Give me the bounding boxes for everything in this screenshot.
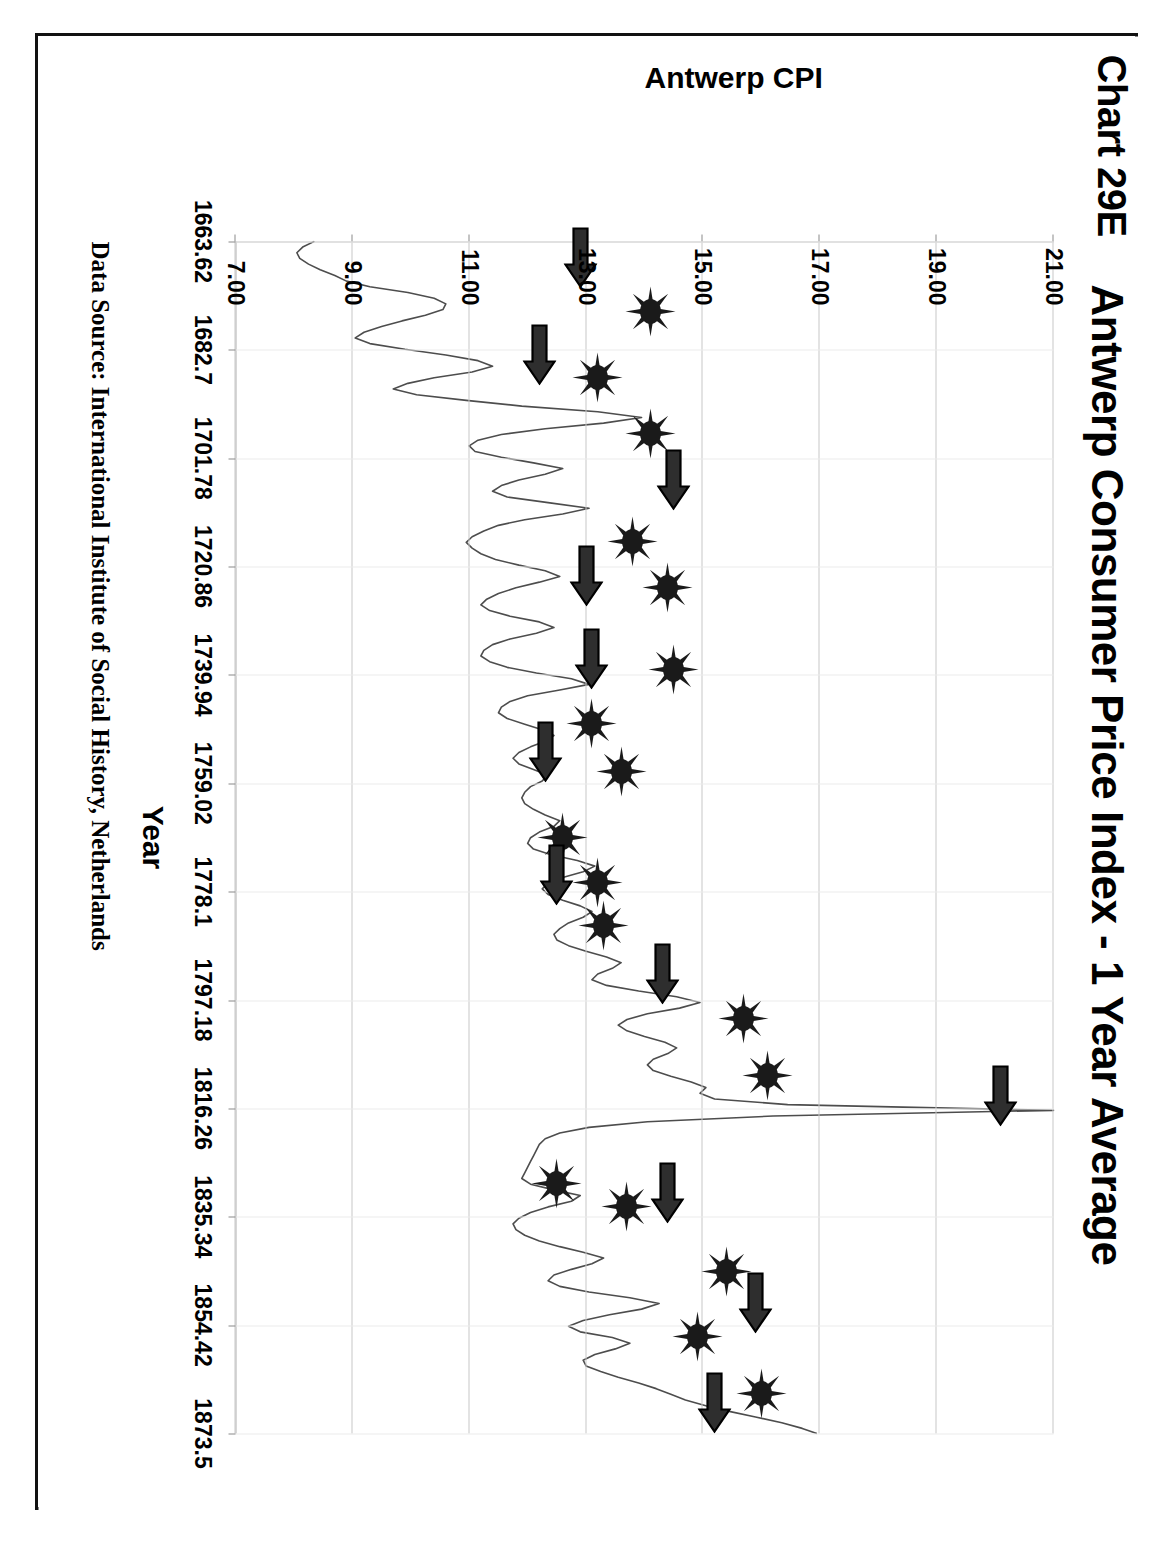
x-axis-tick-label: 1759.02 [188, 741, 215, 824]
block-arrow-marker-icon [650, 1161, 684, 1223]
x-axis-tick-label: 1720.86 [188, 525, 215, 608]
x-axis-tick-label: 1873.5 [188, 1398, 215, 1468]
x-tickmark [228, 674, 235, 675]
sunburst-marker-icon [575, 897, 631, 953]
block-arrow-marker-icon [656, 448, 690, 510]
sunburst-marker-icon [639, 559, 695, 615]
y-tickmark [818, 234, 819, 241]
x-tickmark [228, 1108, 235, 1109]
y-gridline [468, 241, 469, 1433]
chart-canvas: Chart 29E Antwerp Consumer Price Index -… [38, 36, 1141, 1513]
x-tickmark [228, 241, 235, 242]
y-tickmark [234, 234, 235, 241]
block-arrow-marker-icon [645, 942, 679, 1004]
block-arrow-marker-icon [697, 1371, 731, 1433]
x-gridline [235, 891, 1053, 892]
y-tickmark [701, 234, 702, 241]
y-axis-tick-label: 15.00 [689, 247, 716, 305]
x-tickmark [228, 1216, 235, 1217]
block-arrow-marker-icon [539, 843, 573, 905]
x-tickmark [228, 349, 235, 350]
x-gridline [235, 1000, 1053, 1001]
y-gridline [818, 241, 819, 1433]
x-axis-tick-label: 1835.34 [188, 1175, 215, 1258]
y-tickmark [1052, 234, 1053, 241]
block-arrow-marker-icon [522, 323, 556, 385]
x-gridline [235, 674, 1053, 675]
y-gridline [234, 241, 235, 1433]
page-frame: Chart 29E Antwerp Consumer Price Index -… [35, 33, 1138, 1510]
x-tickmark [228, 566, 235, 567]
x-gridline [235, 349, 1053, 350]
y-axis-title: Antwerp CPI [644, 60, 822, 94]
block-arrow-marker-icon [574, 627, 608, 689]
x-gridline [235, 241, 1053, 242]
y-axis-tick-label: 19.00 [923, 247, 950, 305]
y-axis-tick-label: 9.00 [338, 260, 365, 305]
sunburst-marker-icon [645, 641, 701, 697]
x-axis-tick-label: 1739.94 [188, 633, 215, 716]
sunburst-marker-icon [569, 349, 625, 405]
sunburst-marker-icon [528, 1155, 584, 1211]
sunburst-marker-icon [669, 1308, 725, 1364]
x-axis-tick-label: 1816.26 [188, 1066, 215, 1149]
x-tickmark [228, 1433, 235, 1434]
sunburst-marker-icon [563, 695, 619, 751]
y-axis-tick-label: 21.00 [1040, 247, 1067, 305]
sunburst-marker-icon [593, 743, 649, 799]
sunburst-marker-icon [622, 283, 678, 339]
x-tickmark [228, 783, 235, 784]
y-gridline [1052, 241, 1053, 1433]
x-axis-tick-label: 1663.62 [188, 199, 215, 282]
x-gridline [235, 1433, 1053, 1434]
y-tickmark [351, 234, 352, 241]
x-axis-tick-label: 1797.18 [188, 958, 215, 1041]
y-gridline [351, 241, 352, 1433]
x-axis-tick-label: 1778.1 [188, 856, 215, 926]
y-axis-tick-label: 11.00 [455, 249, 482, 305]
y-tickmark [935, 234, 936, 241]
block-arrow-marker-icon [569, 544, 603, 606]
chart-title: Antwerp Consumer Price Index - 1 Year Av… [1081, 36, 1131, 1513]
x-axis-tick-label: 1854.42 [188, 1283, 215, 1366]
y-tickmark [468, 234, 469, 241]
x-tickmark [228, 458, 235, 459]
plot-area [235, 241, 1053, 1433]
x-gridline [235, 1108, 1053, 1109]
block-arrow-marker-icon [983, 1064, 1017, 1126]
sunburst-marker-icon [715, 990, 771, 1046]
data-source-note: Data Source: International Institute of … [85, 241, 113, 1491]
y-axis-tick-label: 7.00 [222, 260, 249, 305]
x-axis-tick-label: 1682.7 [188, 314, 215, 384]
rotated-chart-wrapper: Chart 29E Antwerp Consumer Price Index -… [38, 36, 1141, 1513]
x-tickmark [228, 1000, 235, 1001]
sunburst-marker-icon [733, 1365, 789, 1421]
x-axis-tick-label: 1701.78 [188, 416, 215, 499]
block-arrow-marker-icon [738, 1271, 772, 1333]
sunburst-marker-icon [598, 1178, 654, 1234]
y-gridline [935, 241, 936, 1433]
x-axis-title: Year [135, 241, 169, 1433]
block-arrow-marker-icon [528, 720, 562, 782]
x-tickmark [228, 1325, 235, 1326]
y-axis-tick-label: 17.00 [806, 247, 833, 305]
x-gridline [235, 1325, 1053, 1326]
y-axis-tick-label: 13.00 [572, 247, 599, 305]
sunburst-marker-icon [739, 1047, 795, 1103]
x-tickmark [228, 891, 235, 892]
